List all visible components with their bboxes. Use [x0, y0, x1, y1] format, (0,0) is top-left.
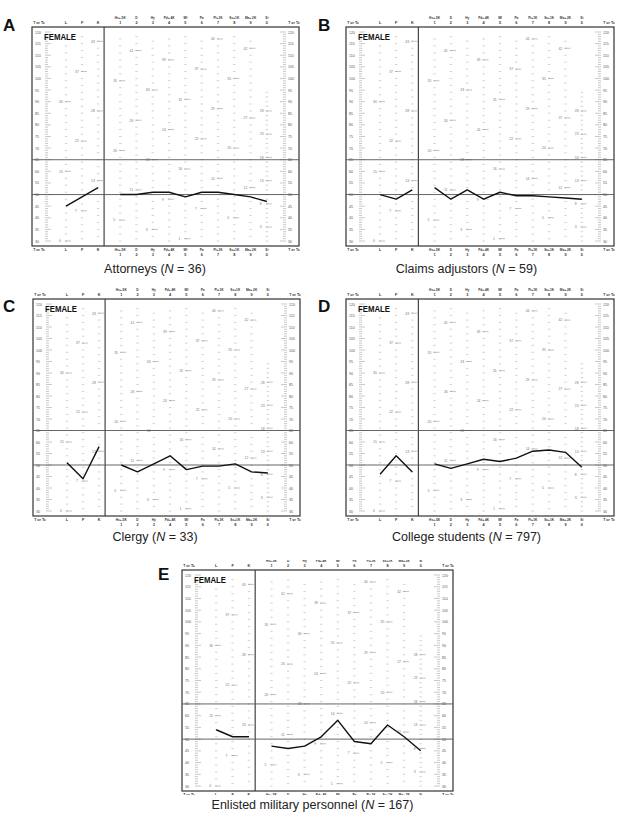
svg-text:55: 55 [185, 726, 189, 730]
svg-text:Ma+.2K: Ma+.2K [399, 793, 411, 795]
svg-text:44: 44 [526, 37, 530, 41]
panel-b: B 30303535404045455050555560606565707075… [0, 0, 623, 280]
svg-text:100: 100 [185, 620, 191, 624]
svg-text:9: 9 [314, 742, 316, 746]
svg-text:9: 9 [564, 21, 566, 25]
svg-text:24: 24 [477, 128, 481, 132]
svg-text:35: 35 [185, 773, 189, 777]
svg-text:13: 13 [405, 450, 409, 454]
svg-text:65: 65 [603, 429, 607, 433]
svg-text:50: 50 [185, 738, 189, 742]
svg-text:Pa: Pa [514, 248, 518, 252]
svg-text:D: D [287, 793, 290, 795]
svg-text:90: 90 [185, 644, 189, 648]
svg-text:1: 1 [270, 564, 272, 568]
svg-text:105: 105 [442, 609, 448, 613]
svg-text:110: 110 [349, 54, 355, 58]
svg-text:60: 60 [603, 170, 607, 174]
svg-text:22: 22 [509, 408, 513, 412]
svg-text:75: 75 [349, 135, 353, 139]
svg-text:5: 5 [499, 21, 501, 25]
svg-text:95: 95 [349, 360, 353, 364]
svg-text:Pa: Pa [514, 288, 518, 292]
svg-text:30: 30 [209, 644, 213, 648]
svg-text:Hy: Hy [465, 16, 469, 20]
svg-text:16: 16 [493, 167, 497, 171]
svg-text:60: 60 [603, 441, 607, 445]
svg-text:65: 65 [603, 158, 607, 162]
svg-text:7: 7 [389, 209, 391, 213]
svg-text:Pt+1K: Pt+1K [528, 288, 538, 292]
svg-text:Sc+1K: Sc+1K [544, 248, 555, 252]
y-axis-ticks: 3030353540404545505055556060656570707575… [349, 303, 609, 514]
svg-text:40: 40 [185, 761, 189, 765]
svg-text:7: 7 [389, 479, 391, 483]
svg-text:0: 0 [209, 784, 211, 788]
svg-text:Hy: Hy [303, 793, 307, 795]
panel-d: D 30303535404045455050555560606565707075… [0, 285, 623, 555]
svg-text:9: 9 [564, 293, 566, 297]
svg-text:7: 7 [532, 523, 534, 527]
svg-text:115: 115 [442, 585, 448, 589]
svg-text:90: 90 [349, 372, 353, 376]
svg-text:45: 45 [185, 749, 189, 753]
svg-text:50: 50 [442, 738, 446, 742]
svg-text:Sc+1K: Sc+1K [383, 560, 394, 563]
svg-text:Hs+.5K: Hs+.5K [266, 560, 278, 563]
svg-text:40: 40 [349, 487, 353, 491]
svg-text:105: 105 [603, 65, 609, 69]
raw-score-marks: 0153072237132843520351126413183392439116… [209, 580, 426, 789]
svg-text:9: 9 [477, 198, 479, 202]
svg-text:37: 37 [389, 341, 393, 345]
svg-text:14: 14 [364, 721, 368, 725]
svg-text:29: 29 [364, 651, 368, 655]
svg-text:4: 4 [483, 523, 486, 527]
svg-text:K: K [411, 21, 414, 25]
svg-text:F: F [395, 21, 398, 25]
svg-text:30: 30 [442, 785, 446, 789]
svg-text:42: 42 [558, 318, 562, 322]
svg-text:Pd+.4K: Pd+.4K [478, 16, 490, 20]
svg-text:7: 7 [347, 751, 349, 755]
svg-text:35: 35 [349, 228, 353, 232]
svg-text:26: 26 [444, 390, 448, 394]
svg-text:T or Tc: T or Tc [347, 518, 359, 522]
svg-text:Mf: Mf [336, 793, 341, 795]
svg-text:95: 95 [603, 89, 607, 93]
svg-text:13: 13 [405, 179, 409, 183]
svg-text:41: 41 [281, 592, 285, 596]
svg-text:Hs+.5K: Hs+.5K [429, 16, 441, 20]
svg-text:85: 85 [603, 383, 607, 387]
svg-text:Hy: Hy [465, 288, 469, 292]
svg-text:55: 55 [349, 452, 353, 456]
svg-text:60: 60 [185, 714, 189, 718]
svg-text:115: 115 [349, 314, 355, 318]
svg-text:5: 5 [542, 486, 544, 490]
raw-score-marks: 0153072237132843520351126413183392439116… [373, 37, 587, 244]
svg-text:0: 0 [373, 509, 375, 513]
svg-text:7: 7 [226, 754, 228, 758]
svg-text:105: 105 [185, 609, 191, 613]
svg-text:35: 35 [349, 498, 353, 502]
svg-text:65: 65 [349, 429, 353, 433]
y-axis-ticks: 3030353540404545505055556060656570707575… [349, 31, 609, 244]
svg-text:13: 13 [242, 723, 246, 727]
svg-text:4: 4 [320, 564, 323, 568]
svg-text:45: 45 [442, 749, 446, 753]
svg-text:5: 5 [499, 523, 501, 527]
svg-text:2: 2 [450, 21, 452, 25]
svg-text:35: 35 [542, 348, 546, 352]
svg-text:Sc+1K: Sc+1K [544, 518, 555, 522]
svg-text:100: 100 [603, 77, 609, 81]
svg-text:100: 100 [442, 620, 448, 624]
svg-text:8: 8 [575, 202, 577, 206]
svg-text:Si: Si [580, 288, 583, 292]
raw-score-marks: 0153072237132843520351126413183392439116… [373, 309, 587, 514]
svg-text:85: 85 [185, 656, 189, 660]
svg-text:43: 43 [405, 312, 409, 316]
svg-text:45: 45 [603, 205, 607, 209]
svg-text:2: 2 [287, 564, 289, 568]
svg-text:7: 7 [532, 253, 534, 257]
svg-text:39: 39 [477, 58, 481, 62]
svg-text:3: 3 [298, 773, 300, 777]
